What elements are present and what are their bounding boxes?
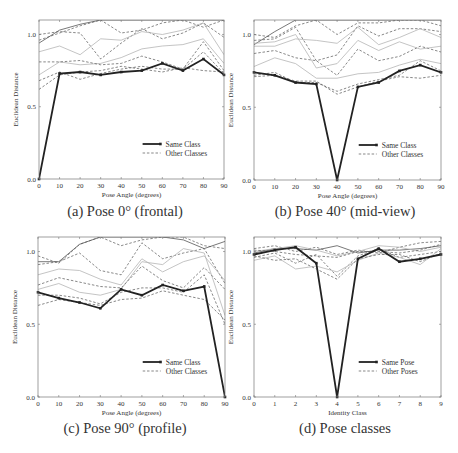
x-axis-label: Pose Angle (degrees) bbox=[102, 191, 162, 199]
data-marker bbox=[79, 71, 82, 74]
data-marker bbox=[398, 260, 401, 263]
legend: Same ClassOther Classes bbox=[143, 140, 208, 158]
x-tick-label: 7 bbox=[398, 400, 402, 408]
x-tick-label: 90 bbox=[222, 400, 230, 408]
legend-label-same: Same Pose bbox=[382, 358, 415, 367]
x-tick-label: 0 bbox=[252, 183, 256, 191]
legend-label-other: Other Classes bbox=[166, 149, 208, 158]
caption-d: (d) Pose classes bbox=[299, 420, 391, 437]
series-other bbox=[254, 27, 441, 46]
x-axis-label: Pose Angle (degrees) bbox=[102, 409, 162, 417]
x-tick-label: 10 bbox=[271, 183, 279, 191]
x-tick-label: 30 bbox=[313, 183, 321, 191]
x-tick-label: 50 bbox=[138, 400, 146, 408]
data-marker bbox=[273, 249, 276, 252]
x-tick-label: 30 bbox=[97, 400, 105, 408]
data-marker bbox=[78, 301, 81, 304]
x-tick-label: 40 bbox=[118, 182, 126, 190]
x-tick-label: 0 bbox=[252, 400, 256, 408]
y-axis-label: Euclidean Distance bbox=[227, 73, 235, 127]
series-same bbox=[39, 59, 224, 179]
chart-canvas: 01020304050607080900.00.51.0Pose Angle (… bbox=[0, 0, 458, 453]
panel-c: 01020304050607080900.00.51.0Pose Angle (… bbox=[11, 237, 229, 417]
x-tick-label: 5 bbox=[356, 400, 360, 408]
x-tick-label: 70 bbox=[396, 183, 404, 191]
y-axis-label: Euclidean Distance bbox=[227, 290, 235, 344]
series-other bbox=[38, 249, 225, 316]
series-other bbox=[254, 35, 441, 69]
x-tick-label: 10 bbox=[56, 182, 64, 190]
data-marker bbox=[57, 297, 60, 300]
y-tick-label: 0.0 bbox=[26, 394, 35, 402]
data-marker bbox=[182, 69, 185, 72]
x-tick-label: 2 bbox=[294, 400, 298, 408]
panel-a: 01020304050607080900.00.51.0Pose Angle (… bbox=[12, 20, 228, 199]
legend-label-same: Same Class bbox=[382, 141, 417, 150]
data-marker bbox=[203, 285, 206, 288]
x-tick-label: 80 bbox=[417, 183, 425, 191]
x-tick-label: 90 bbox=[438, 183, 446, 191]
x-tick-label: 20 bbox=[76, 400, 84, 408]
data-marker bbox=[419, 258, 422, 261]
legend-label-other: Other Poses bbox=[382, 367, 418, 376]
data-marker bbox=[357, 86, 360, 89]
x-tick-label: 60 bbox=[375, 183, 383, 191]
legend-label-same: Same Class bbox=[166, 358, 201, 367]
y-tick-label: 1.0 bbox=[27, 31, 36, 39]
caption-c: (c) Pose 90° (profile) bbox=[64, 420, 187, 437]
y-axis-label: Euclidean Distance bbox=[12, 72, 20, 126]
series-same bbox=[254, 65, 441, 180]
series-other bbox=[39, 20, 224, 40]
data-marker bbox=[398, 70, 401, 73]
x-tick-label: 80 bbox=[201, 400, 209, 408]
series-other bbox=[39, 52, 224, 81]
legend-label-other: Other Classes bbox=[382, 150, 424, 159]
data-marker bbox=[161, 284, 164, 287]
x-tick-label: 0 bbox=[36, 400, 40, 408]
x-tick-label: 40 bbox=[334, 183, 342, 191]
series-other bbox=[39, 66, 224, 89]
x-tick-label: 10 bbox=[55, 400, 63, 408]
data-marker bbox=[377, 81, 380, 84]
x-tick-label: 70 bbox=[180, 400, 188, 408]
series-other bbox=[39, 42, 224, 71]
x-tick-label: 40 bbox=[118, 400, 126, 408]
x-tick-label: 8 bbox=[418, 400, 422, 408]
x-tick-label: 50 bbox=[138, 182, 146, 190]
y-tick-label: 0.5 bbox=[26, 321, 35, 329]
legend-label-same: Same Class bbox=[166, 140, 201, 149]
legend: Same PoseOther Poses bbox=[359, 358, 418, 376]
x-axis-label: Identity Class bbox=[328, 409, 367, 417]
data-marker bbox=[377, 247, 380, 250]
series-other bbox=[254, 46, 441, 75]
series-same bbox=[38, 285, 225, 397]
x-tick-label: 70 bbox=[179, 182, 187, 190]
data-marker bbox=[120, 288, 123, 291]
y-tick-label: 1.0 bbox=[242, 31, 251, 39]
caption-a: (a) Pose 0° (frontal) bbox=[67, 203, 183, 220]
data-marker bbox=[140, 69, 143, 72]
series-other bbox=[254, 244, 441, 257]
series-other bbox=[38, 291, 225, 320]
legend-label-other: Other Classes bbox=[166, 367, 208, 376]
data-marker bbox=[99, 307, 102, 310]
legend: Same ClassOther Classes bbox=[359, 141, 424, 159]
panel-d: 01234567890.00.51.0Identity ClassEuclide… bbox=[227, 237, 443, 417]
x-tick-label: 4 bbox=[335, 400, 339, 408]
data-marker bbox=[58, 72, 61, 75]
x-axis-label: Pose Angle (degrees) bbox=[318, 192, 378, 200]
y-tick-label: 0.0 bbox=[242, 177, 251, 185]
x-tick-label: 20 bbox=[292, 183, 300, 191]
data-marker bbox=[182, 290, 185, 293]
x-tick-label: 9 bbox=[439, 400, 443, 408]
y-tick-label: 0.5 bbox=[27, 103, 36, 111]
x-tick-label: 1 bbox=[273, 400, 277, 408]
y-tick-label: 1.0 bbox=[242, 248, 251, 256]
data-marker bbox=[273, 74, 276, 77]
data-marker bbox=[315, 262, 318, 265]
data-marker bbox=[294, 81, 297, 84]
y-axis-label: Euclidean Distance bbox=[11, 290, 19, 344]
y-tick-label: 0.0 bbox=[242, 394, 251, 402]
data-marker bbox=[202, 58, 205, 61]
data-marker bbox=[99, 74, 102, 77]
